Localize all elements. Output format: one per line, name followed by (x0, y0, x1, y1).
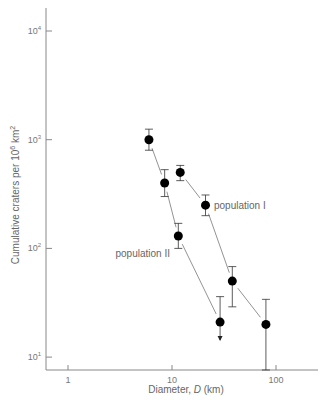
data-series: population IIpopulation I (116, 129, 271, 370)
data-point-marker (174, 232, 183, 241)
data-point-marker (144, 135, 153, 144)
data-point-marker (216, 318, 225, 327)
series-label: population II (116, 248, 171, 259)
data-point-marker (176, 168, 185, 177)
upper-limit-arrow-icon (218, 336, 223, 341)
trend-line (152, 148, 162, 174)
data-point-marker (201, 201, 210, 210)
y-tick-label: 101 (28, 351, 42, 362)
trend-line (238, 288, 261, 317)
series-population-i: population I (176, 165, 271, 370)
axis-labels: Diameter, D (km) Cumulative craters per … (9, 126, 224, 395)
series-population-ii: population II (116, 129, 225, 341)
series-label: population I (214, 200, 266, 211)
x-tick-label: 100 (268, 375, 283, 385)
y-tick-label: 104 (28, 25, 42, 36)
data-point-marker (228, 277, 237, 286)
trend-line (186, 180, 200, 198)
data-point-marker (160, 178, 169, 187)
trend-line (209, 214, 230, 273)
crater-size-frequency-chart: 110100104103102101 population IIpopulati… (0, 0, 327, 403)
x-tick-label: 1 (65, 375, 70, 385)
y-tick-label: 102 (28, 242, 42, 253)
data-point-marker (261, 320, 270, 329)
y-axis-title: Cumulative craters per 106 km2 (9, 126, 21, 265)
trend-line (182, 244, 216, 314)
x-axis-title: Diameter, D (km) (148, 384, 224, 395)
y-tick-label: 103 (28, 134, 42, 145)
axes: 110100104103102101 (28, 8, 318, 385)
trend-line (167, 192, 176, 228)
